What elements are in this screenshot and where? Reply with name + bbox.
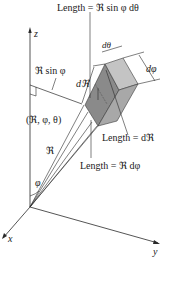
d-phi-ext-top [123,52,144,58]
y-axis-arrow-icon [153,240,160,244]
label-d-r: dℜ [76,79,89,89]
label-length-r-dphi: Length = ℜ dφ [80,161,140,171]
d-phi-ext-bot [138,79,160,84]
y-axis [30,207,158,243]
d-r-ext [93,64,105,66]
label-point-coordinates: (ℜ, φ, θ) [26,115,61,125]
r-sin-phi-pointer [52,78,56,90]
r-sin-phi-line [30,85,82,104]
label-z-axis: z [34,29,38,39]
label-y-axis: y [153,247,157,257]
phi-arc [30,191,39,196]
label-d-theta: dθ [102,41,111,50]
right-angle-marker [30,87,36,96]
label-x-axis: x [8,234,12,244]
label-length-dr: Length = dℜ [102,133,154,143]
label-phi: φ [35,178,41,188]
label-length-r-sin-phi-dtheta: Length = ℜ sin φ dθ [57,3,139,13]
label-d-phi: dφ [146,64,157,74]
z-axis-arrow-icon [28,27,31,33]
label-r-sin-phi: ℜ sin φ [35,66,65,76]
volume-element-box [85,58,138,126]
label-r: ℜ [46,146,54,156]
